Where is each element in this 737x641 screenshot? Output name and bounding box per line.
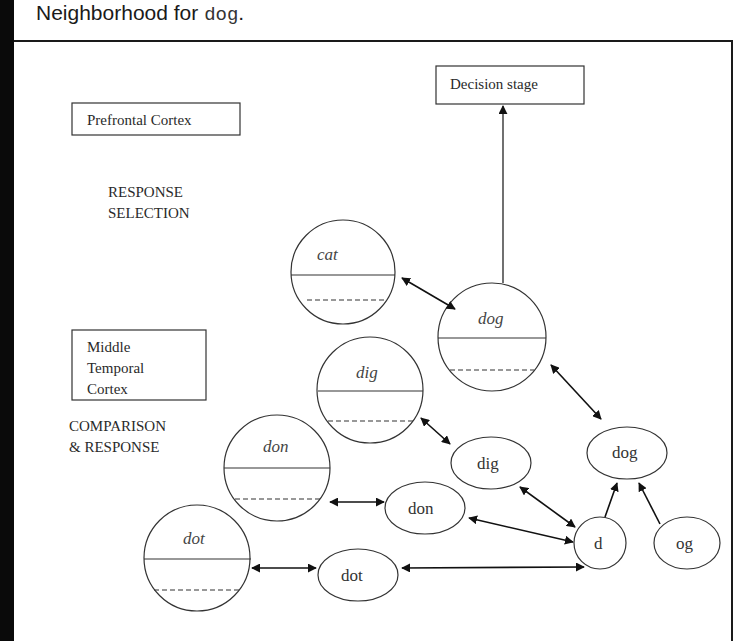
decision-stage-box: Decision stage: [436, 66, 584, 104]
edges: [252, 106, 660, 568]
word-node-don: don: [224, 415, 330, 521]
svg-text:Cortex: Cortex: [87, 381, 128, 397]
form-node-d: d: [574, 517, 626, 569]
svg-text:d: d: [594, 534, 603, 553]
svg-text:cat: cat: [317, 245, 339, 264]
word-node-dig: dig: [317, 337, 423, 443]
svg-text:dig: dig: [477, 454, 499, 473]
svg-text:dot: dot: [183, 529, 206, 548]
svg-text:dot: dot: [341, 566, 363, 585]
svg-text:dog: dog: [478, 309, 504, 328]
svg-text:dog: dog: [612, 443, 638, 462]
svg-text:dig: dig: [356, 363, 378, 382]
svg-text:COMPARISON: COMPARISON: [69, 418, 166, 434]
svg-text:SELECTION: SELECTION: [108, 205, 190, 221]
edge-donform-d: [469, 518, 573, 542]
middle-temporal-cortex-box: Middle Temporal Cortex: [72, 330, 206, 400]
prefrontal-cortex-label: Prefrontal Cortex: [87, 112, 192, 128]
svg-text:& RESPONSE: & RESPONSE: [69, 439, 159, 455]
prefrontal-cortex-box: Prefrontal Cortex: [72, 103, 240, 135]
edge-dig-digform: [421, 418, 450, 444]
edge-d-dogform: [605, 483, 617, 517]
form-node-dig: dig: [451, 437, 531, 489]
svg-text:don: don: [263, 437, 289, 456]
response-selection-label: RESPONSE SELECTION: [108, 184, 190, 221]
svg-text:RESPONSE: RESPONSE: [108, 184, 183, 200]
edge-digform-d: [520, 487, 575, 527]
word-node-dot: dot: [144, 505, 251, 611]
form-node-don: don: [385, 482, 465, 534]
svg-text:don: don: [408, 499, 434, 518]
form-node-dot: dot: [318, 549, 398, 601]
neighborhood-diagram: Prefrontal Cortex RESPONSE SELECTION Dec…: [0, 0, 737, 641]
svg-text:Temporal: Temporal: [87, 360, 144, 376]
edge-dotform-d: [402, 567, 584, 568]
edge-dog-dogform: [551, 365, 601, 419]
svg-text:Middle: Middle: [87, 339, 131, 355]
word-node-dog: dog: [438, 283, 546, 391]
edge-og-dogform: [639, 483, 660, 524]
edge-cat-dog: [402, 278, 455, 309]
decision-stage-label: Decision stage: [450, 76, 538, 92]
word-node-cat: cat: [291, 220, 395, 324]
svg-text:og: og: [676, 534, 694, 553]
form-node-og: og: [654, 517, 720, 569]
form-node-dog: dog: [587, 427, 667, 479]
comparison-response-label: COMPARISON & RESPONSE: [69, 418, 166, 455]
